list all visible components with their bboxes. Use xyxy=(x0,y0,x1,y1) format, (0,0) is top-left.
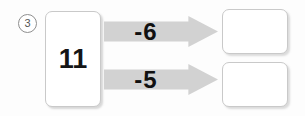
answer-box-1[interactable] xyxy=(222,9,288,54)
start-value-text: 11 xyxy=(46,44,100,75)
operation-arrow-2: -5 xyxy=(104,64,218,95)
operation-arrow-1: -6 xyxy=(104,16,218,47)
problem-number-badge: 3 xyxy=(18,14,37,33)
answer-box-2[interactable] xyxy=(222,62,288,107)
operation-label-1: -6 xyxy=(104,18,188,46)
start-value-box: 11 xyxy=(45,11,101,107)
math-worksheet-problem: 3 11 -6 -5 xyxy=(0,0,305,116)
operation-label-2: -5 xyxy=(104,66,188,94)
